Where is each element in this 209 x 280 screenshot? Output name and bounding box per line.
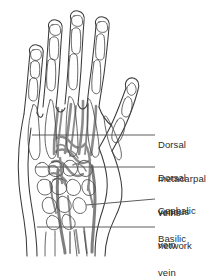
label-line: Dorsal — [158, 172, 192, 183]
label-line: vein — [158, 267, 186, 278]
label-basilic-vein: Basilic vein — [158, 211, 186, 280]
label-line: Dorsal — [158, 139, 206, 150]
label-line: Basilic — [158, 233, 186, 244]
